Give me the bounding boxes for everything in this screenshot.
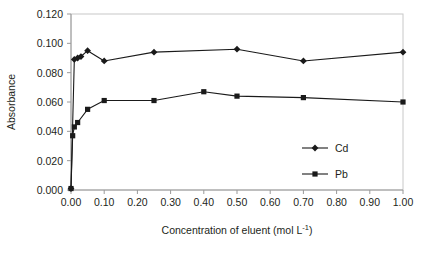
y-tick-label: 0.100 [37,37,63,49]
x-tick-label: 0.00 [61,196,82,208]
y-tick-label: 0.000 [37,184,63,196]
data-point-marker [75,120,80,125]
y-tick-label: 0.120 [37,8,63,20]
x-tick-label: 0.80 [326,196,347,208]
data-point-marker [151,98,156,103]
x-axis-title-superscript: -1 [302,223,309,232]
data-point-marker [102,98,107,103]
x-axis-tick-labels: 0.000.100.200.300.400.500.600.700.800.90… [61,196,414,208]
y-tick-label: 0.080 [37,67,63,79]
x-axis-title: Concentration of eluent (mol L-1) [162,223,313,236]
data-point-marker [85,107,90,112]
x-tick-label: 0.10 [94,196,115,208]
x-tick-label: 0.50 [227,196,248,208]
x-tick-label: 0.30 [160,196,181,208]
x-axis-title-main: Concentration of eluent (mol L [162,224,303,236]
legend-label: Cd [335,142,349,154]
absorbance-vs-eluent-concentration-chart: 0.000.100.200.300.400.500.600.700.800.90… [0,0,427,253]
y-tick-label: 0.020 [37,155,63,167]
data-point-marker [70,133,75,138]
x-tick-label: 0.60 [260,196,281,208]
legend-label: Pb [335,168,348,180]
y-axis-title: Absorbance [5,74,17,130]
data-point-marker [312,171,317,176]
y-tick-label: 0.060 [37,96,63,108]
x-tick-label: 0.70 [293,196,314,208]
data-point-marker [68,186,73,191]
chart-container: 0.000.100.200.300.400.500.600.700.800.90… [0,0,427,253]
x-axis-title-tail: ) [309,224,313,236]
data-point-marker [400,99,405,104]
data-point-marker [301,95,306,100]
chart-background [0,0,427,253]
x-tick-label: 1.00 [393,196,414,208]
x-tick-label: 0.40 [194,196,215,208]
data-point-marker [201,89,206,94]
x-tick-label: 0.20 [127,196,148,208]
y-tick-label: 0.040 [37,125,63,137]
x-tick-label: 0.90 [360,196,381,208]
data-point-marker [234,94,239,99]
